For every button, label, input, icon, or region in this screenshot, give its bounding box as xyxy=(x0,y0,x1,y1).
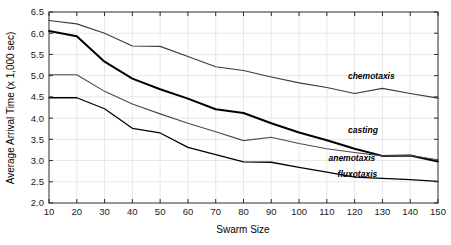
y-tick-label: 2.5 xyxy=(31,176,44,187)
x-tick-label: 80 xyxy=(238,206,249,217)
x-tick-label: 10 xyxy=(44,206,55,217)
y-tick-label: 5.0 xyxy=(31,70,44,81)
y-tick-label: 6.5 xyxy=(31,6,44,17)
y-tick-label: 6.0 xyxy=(31,28,44,39)
series-label-fluxotaxis: fluxotaxis xyxy=(338,169,378,179)
y-tick-label: 4.0 xyxy=(31,113,44,124)
x-axis-title: Swarm Size xyxy=(216,224,270,235)
x-tick-label: 140 xyxy=(402,206,418,217)
y-tick-label: 5.5 xyxy=(31,49,44,60)
x-tick-label: 90 xyxy=(266,206,277,217)
y-tick-label: 3.0 xyxy=(31,155,44,166)
x-tick-label: 150 xyxy=(430,206,446,217)
x-tick-label: 70 xyxy=(210,206,221,217)
y-axis-title: Average Arrival Time (x 1,000 sec) xyxy=(5,32,16,185)
y-tick-label: 3.5 xyxy=(31,134,44,145)
x-tick-label: 130 xyxy=(374,206,390,217)
x-tick-label: 20 xyxy=(71,206,82,217)
x-tick-label: 30 xyxy=(99,206,110,217)
x-tick-label: 40 xyxy=(127,206,138,217)
x-tick-label: 50 xyxy=(155,206,166,217)
arrival-time-line-chart: 102030405060708090100110120130140150 2.0… xyxy=(0,0,451,245)
series-label-chemotaxis: chemotaxis xyxy=(348,71,395,81)
x-tick-label: 60 xyxy=(183,206,194,217)
series-label-anemotaxis: anemotaxis xyxy=(328,153,375,163)
y-tick-label: 4.5 xyxy=(31,91,44,102)
chart-container: 102030405060708090100110120130140150 2.0… xyxy=(0,0,451,245)
x-tick-label: 110 xyxy=(319,206,334,217)
x-tick-label: 120 xyxy=(347,206,363,217)
series-label-casting: casting xyxy=(348,125,379,135)
x-tick-label: 100 xyxy=(291,206,307,217)
y-tick-label: 2.0 xyxy=(31,197,44,208)
